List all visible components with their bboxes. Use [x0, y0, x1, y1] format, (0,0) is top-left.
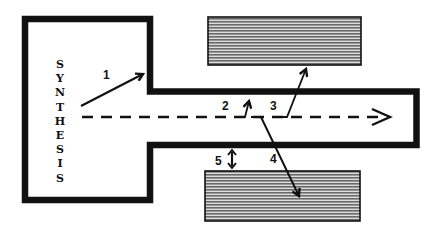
- label-letter: N: [55, 86, 65, 100]
- label-letter: I: [57, 157, 62, 171]
- step-label-2: 2: [222, 100, 229, 112]
- label-letter: S: [56, 58, 64, 72]
- label-letter: S: [56, 143, 64, 157]
- label-letter: S: [56, 172, 64, 186]
- step-label-5: 5: [215, 155, 222, 167]
- step-label-1: 1: [103, 69, 110, 81]
- label-letter: T: [56, 101, 64, 115]
- step-label-3: 3: [270, 100, 277, 112]
- upper-block: [208, 17, 361, 65]
- step-label-4: 4: [270, 153, 277, 165]
- label-letter: E: [56, 129, 64, 143]
- lower-block: [205, 171, 360, 221]
- label-letter: H: [55, 115, 65, 129]
- label-letter: Y: [56, 72, 64, 86]
- synthesis-label: S Y N T H E S I S: [48, 58, 72, 186]
